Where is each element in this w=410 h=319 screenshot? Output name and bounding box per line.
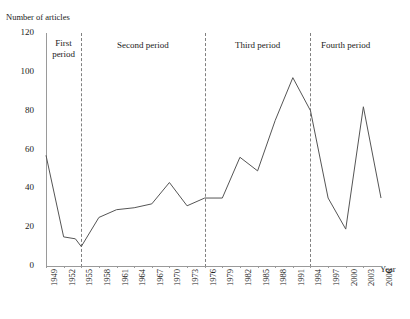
line-chart: Number of articles Year 020406080100120 …: [0, 0, 410, 319]
data-series-line: [0, 0, 410, 319]
